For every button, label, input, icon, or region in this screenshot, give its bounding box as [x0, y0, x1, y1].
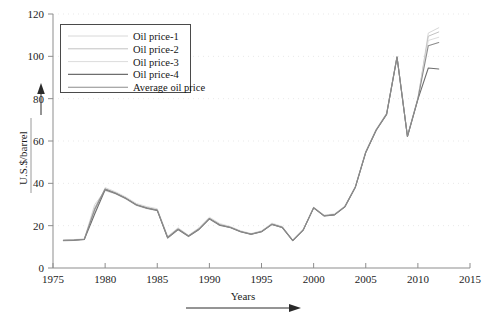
- x-tick-label: 1985: [146, 273, 169, 285]
- y-tick-label: 120: [28, 8, 45, 20]
- legend-label-3: Oil price-3: [133, 57, 179, 68]
- x-axis-title-group: Years: [186, 290, 301, 312]
- x-tick-label: 2000: [303, 273, 326, 285]
- x-tick-label: 2010: [407, 273, 430, 285]
- x-axis-title: Years: [231, 290, 256, 302]
- x-tick-label: 2015: [459, 273, 482, 285]
- y-tick-label: 40: [33, 177, 45, 189]
- chart-canvas: 020406080100120 197519801985199019952000…: [0, 0, 487, 317]
- x-tick-label: 1975: [42, 273, 65, 285]
- x-tick-label: 1980: [94, 273, 117, 285]
- x-tick-label: 2005: [355, 273, 378, 285]
- legend-label-4: Oil price-4: [133, 69, 180, 80]
- y-tick-label: 20: [33, 220, 45, 232]
- legend: Oil price-1Oil price-2Oil price-3Oil pri…: [61, 25, 206, 94]
- y-tick-label: 80: [33, 93, 45, 105]
- x-tick-label: 1990: [198, 273, 221, 285]
- legend-label-2: Oil price-2: [133, 44, 179, 55]
- x-axis: 197519801985199019952000200520102015: [42, 263, 482, 285]
- legend-label-5: Average oil price: [133, 82, 205, 93]
- y-axis-title: U.S.$/barrel: [17, 131, 29, 185]
- oil-price-line-chart: 020406080100120 197519801985199019952000…: [0, 0, 487, 317]
- x-tick-label: 1995: [251, 273, 274, 285]
- legend-label-1: Oil price-1: [133, 31, 179, 42]
- y-tick-label: 60: [33, 135, 45, 147]
- y-tick-label: 100: [28, 50, 45, 62]
